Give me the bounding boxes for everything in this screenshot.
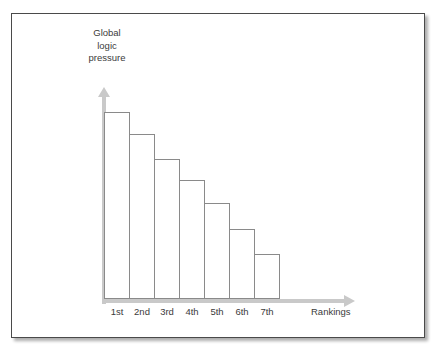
y-axis-title-line-1: Global — [52, 27, 162, 40]
bar-5th — [204, 203, 230, 299]
bar-4th — [179, 180, 205, 299]
x-tick-label-3rd: 3rd — [154, 305, 180, 318]
y-axis-title-line-3: pressure — [52, 52, 162, 65]
bar-2nd — [129, 134, 155, 299]
bar-7th — [254, 254, 280, 299]
x-tick-label-6th: 6th — [229, 305, 255, 318]
bar-1st — [104, 112, 130, 299]
x-axis-tick-labels: 1st2nd3rd4th5th6th7th — [104, 305, 279, 318]
y-axis-title-line-2: logic — [52, 40, 162, 53]
bar-3rd — [154, 159, 180, 299]
x-tick-label-7th: 7th — [254, 305, 280, 318]
figure-canvas: Global logic pressure 1st2nd3rd4th5th6th… — [0, 0, 448, 358]
bar-series — [104, 99, 279, 299]
x-tick-label-2nd: 2nd — [129, 305, 155, 318]
x-axis-title: Rankings — [311, 305, 351, 318]
bar-6th — [229, 229, 255, 299]
x-tick-label-1st: 1st — [104, 305, 130, 318]
x-tick-label-4th: 4th — [179, 305, 205, 318]
x-axis-line — [104, 299, 346, 303]
x-tick-label-5th: 5th — [204, 305, 230, 318]
y-axis-title: Global logic pressure — [52, 27, 162, 65]
plot-area: Global logic pressure 1st2nd3rd4th5th6th… — [12, 14, 426, 339]
chart-panel: Global logic pressure 1st2nd3rd4th5th6th… — [11, 13, 425, 338]
y-axis-arrow-icon — [98, 87, 110, 97]
